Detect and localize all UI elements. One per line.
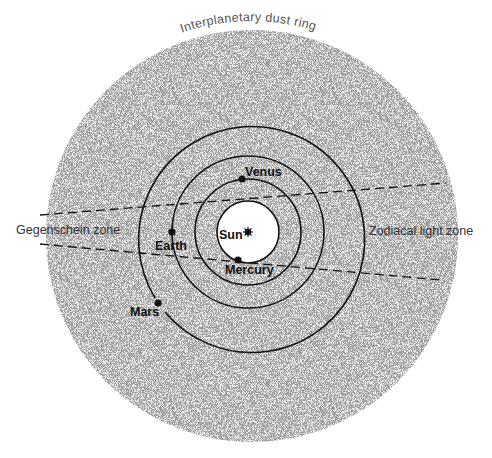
zodiacal-light-zone-label: Zodiacal light zone xyxy=(369,224,473,238)
earth-dot xyxy=(168,228,175,235)
mars-label: Mars xyxy=(130,305,159,319)
gegenschein-zone-label: Gegenschein zone xyxy=(16,223,120,237)
sun-label: Sun xyxy=(219,228,243,242)
solar-system-diagram: Sun Mercury Venus Earth Mars Gegenschein… xyxy=(0,0,492,458)
mercury-label: Mercury xyxy=(225,263,274,277)
sun-icon xyxy=(243,227,253,237)
venus-label: Venus xyxy=(245,165,282,179)
earth-label: Earth xyxy=(155,239,187,253)
